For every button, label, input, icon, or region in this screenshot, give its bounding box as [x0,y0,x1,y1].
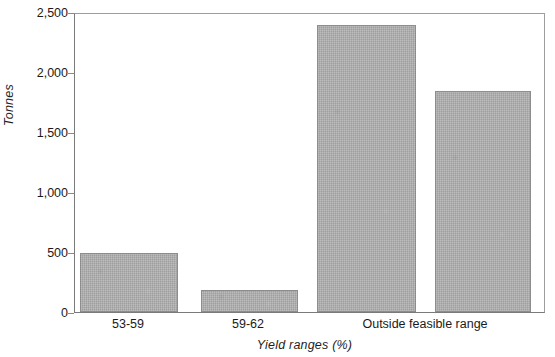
y-tick-label: 500 [24,247,68,260]
bar-texture [81,254,177,311]
x-tick-label: Outside feasible range [362,317,487,331]
y-tick-mark [68,313,74,314]
x-axis-title: Yield ranges (%) [0,338,555,352]
plot-area [74,13,545,313]
bar-outside-feasible-range-1 [317,25,416,312]
bar-59-62 [201,290,298,312]
bar-outside-feasible-range-2 [435,91,531,312]
x-tick-label: 59-62 [232,317,264,331]
bar-chart-figure: Tonnes 2,5002,0001,5001,0005000 53-5959-… [0,0,555,357]
y-axis-tick-labels: 2,5002,0001,5001,0005000 [16,0,68,357]
y-tick-mark [68,133,74,134]
y-tick-label: 2,500 [24,7,68,20]
y-tick-label: 1,000 [24,187,68,200]
bar-texture [318,26,415,311]
bar-texture [202,291,297,311]
bar-texture [436,92,530,311]
x-axis-title-text: Yield ranges (%) [257,338,352,352]
y-tick-label: 1,500 [24,127,68,140]
y-tick-mark [68,13,74,14]
y-tick-label: 2,000 [24,67,68,80]
x-tick-label: 53-59 [112,317,144,331]
y-tick-mark [68,73,74,74]
y-tick-mark [68,193,74,194]
bar-53-59 [80,253,178,312]
y-tick-mark [68,253,74,254]
y-tick-label: 0 [24,307,68,320]
